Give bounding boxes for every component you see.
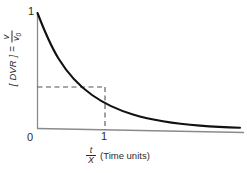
y-label-denominator-subscript: 0 xyxy=(16,33,23,37)
figure-container: 1 0 1 [DVR] = v v0 t X (Time units) xyxy=(0,0,247,173)
y-label-denominator: v0 xyxy=(12,31,24,43)
x-axis-label: t X (Time units) xyxy=(86,146,150,166)
y-tick-label-1: 1 xyxy=(28,6,34,17)
decay-curve xyxy=(38,13,241,128)
y-label-bracket-close: ] xyxy=(7,55,18,58)
y-label-equals: = xyxy=(7,46,18,52)
x-tick-label-1: 1 xyxy=(101,131,107,142)
y-label-fraction: v v0 xyxy=(2,31,23,43)
y-label-denominator-symbol: v xyxy=(12,36,22,41)
x-label-numerator: t xyxy=(88,146,95,155)
x-label-fraction: t X xyxy=(86,146,96,166)
x-tick-label-0: 0 xyxy=(27,132,33,143)
x-axis xyxy=(37,129,244,133)
y-label-numerator: v xyxy=(2,33,11,42)
y-label-bracket-open: [ xyxy=(7,84,18,87)
y-axis-label: [DVR] = v v0 xyxy=(2,20,23,98)
x-label-units: (Time units) xyxy=(100,150,150,161)
x-label-denominator: X xyxy=(86,155,96,165)
y-label-symbol: DVR xyxy=(7,60,18,80)
